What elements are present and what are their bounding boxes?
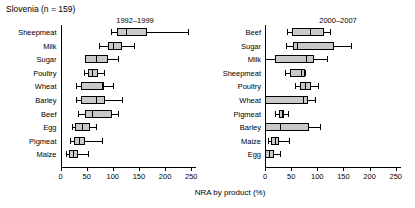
box [265,123,309,131]
box [290,69,305,77]
box [292,28,324,36]
panel-title: 2000–2007 [298,16,378,25]
x-axis-tick [291,168,292,171]
whisker-cap-high [289,138,290,144]
whisker-cap-low [275,111,276,117]
boxplot-poultry [0,82,415,90]
x-axis-tick [113,168,114,171]
x-axis-tick-label: 250 [176,172,206,181]
x-axis-tick [191,168,192,171]
whisker-cap-high [288,111,289,117]
median-line [301,69,302,77]
boxplot-wheat [0,96,415,104]
x-axis-tick [87,168,88,171]
x-axis-tick [265,168,266,171]
whisker-cap-low [265,56,266,62]
x-axis-line [61,167,197,168]
whisker-cap-low [285,70,286,76]
x-axis-tick-label: 250 [381,172,411,181]
median-line [306,55,307,63]
x-axis-tick [343,168,344,171]
boxplot-figure: Slovenia (n = 159) 1992–1999050100150200… [0,0,415,208]
whisker-cap-low [295,83,296,89]
whisker-cap-high [305,70,306,76]
boxplot-beef [0,28,415,36]
boxplot-sheepmeat [0,69,415,77]
whisker-cap-low [287,29,288,35]
median-line [280,123,281,131]
x-axis-tick [165,168,166,171]
whisker-cap-high [351,43,352,49]
median-line [303,96,304,104]
median-line [305,82,306,90]
x-axis-line [265,167,401,168]
x-axis-tick [61,168,62,171]
x-axis-tick [317,168,318,171]
median-line [282,110,283,118]
whisker-cap-low [286,43,287,49]
boxplot-barley [0,123,415,131]
figure-title: Slovenia (n = 159) [6,4,75,14]
x-axis-label: NRA by product (%) [150,188,310,197]
boxplot-milk [0,55,415,63]
boxplot-sugar [0,42,415,50]
median-line [310,28,311,36]
whisker-cap-high [330,29,331,35]
x-axis-tick [139,168,140,171]
median-line [269,150,270,158]
x-axis-tick [396,168,397,171]
whisker-cap-high [327,56,328,62]
box [275,55,314,63]
box [265,96,308,104]
whisker-cap-low [268,138,269,144]
box [293,42,333,50]
whisker-cap-high [318,83,319,89]
x-axis-tick [370,168,371,171]
whisker-cap-high [280,151,281,157]
boxplot-pigmeat [0,110,415,118]
median-line [297,42,298,50]
boxplot-egg [0,150,415,158]
median-line [275,137,276,145]
panel-title: 1992–1999 [95,16,175,25]
boxplot-maize [0,137,415,145]
whisker-cap-high [320,124,321,130]
whisker-cap-high [315,97,316,103]
